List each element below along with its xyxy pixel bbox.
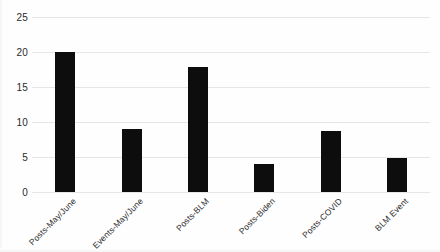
x-tick-label: BLM Event xyxy=(373,196,410,233)
bar xyxy=(188,67,208,192)
y-tick-label: 5 xyxy=(22,152,28,163)
bar xyxy=(254,164,274,192)
bar xyxy=(321,131,341,192)
bar xyxy=(55,52,75,192)
y-tick-label: 20 xyxy=(16,47,28,58)
x-tick-label: Posts-Biden xyxy=(237,196,277,236)
y-tick-label: 25 xyxy=(16,12,28,23)
plot-area xyxy=(32,17,430,192)
gridline xyxy=(32,52,430,53)
y-tick-label: 10 xyxy=(16,117,28,128)
x-tick-label: Events-May/June xyxy=(90,196,145,251)
gridline xyxy=(32,122,430,123)
x-tick-label: Posts-COVID xyxy=(300,196,344,240)
bar xyxy=(387,158,407,192)
x-axis: Posts-May/JuneEvents-May/JunePosts-BLMPo… xyxy=(32,192,430,252)
gridline xyxy=(32,87,430,88)
y-tick-label: 0 xyxy=(22,187,28,198)
gridline xyxy=(32,17,430,18)
gridline xyxy=(32,157,430,158)
x-tick-label: Posts-BLM xyxy=(174,196,211,233)
bar xyxy=(122,129,142,192)
x-tick-label: Posts-May/June xyxy=(27,196,78,247)
bar-chart-screenshot: 0510152025 Posts-May/JuneEvents-May/June… xyxy=(0,0,440,252)
y-axis: 0510152025 xyxy=(0,17,28,192)
y-tick-label: 15 xyxy=(16,82,28,93)
